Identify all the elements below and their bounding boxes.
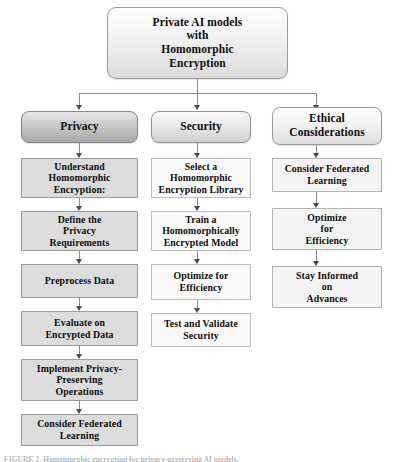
column-header-privacy[interactable]: Privacy (21, 111, 138, 143)
connector-root-trunk (197, 79, 198, 93)
step-security-1[interactable]: Select a Homomorphic Encryption Library (151, 158, 251, 198)
column-header-security[interactable]: Security (151, 111, 251, 143)
figure-caption: FIGURE 2. Homomorphic encryption for pri… (4, 456, 392, 462)
root-node-private-ai-models[interactable]: Private AI models with Homomorphic Encry… (107, 7, 288, 79)
column-header-ethical-considerations[interactable]: Ethical Considerations (272, 107, 382, 145)
step-privacy-3[interactable]: Preprocess Data (21, 264, 138, 298)
arrowhead-to-security-header (194, 105, 200, 110)
step-privacy-2[interactable]: Define the Privacy Requirements (21, 211, 138, 251)
step-ethical-2[interactable]: Optimize for Efficiency (272, 208, 382, 250)
step-privacy-1[interactable]: Understand Homomorphic Encryption: (21, 158, 138, 198)
step-privacy-5[interactable]: Implement Privacy- Preserving Operations (21, 359, 138, 401)
step-ethical-1[interactable]: Consider Federated Learning (272, 158, 382, 192)
step-security-2[interactable]: Train a Homomorphically Encrypted Model (151, 211, 251, 251)
step-security-3[interactable]: Optimize for Efficiency (151, 264, 251, 300)
step-ethical-3[interactable]: Stay Informed on Advances (272, 266, 382, 308)
step-security-4[interactable]: Test and Validate Security (151, 313, 251, 347)
step-privacy-6[interactable]: Consider Federated Learning (21, 414, 138, 446)
flowchart-diagram: Private AI models with Homomorphic Encry… (0, 0, 395, 462)
step-privacy-4[interactable]: Evaluate on Encrypted Data (21, 311, 138, 346)
arrowhead-to-privacy-header (76, 105, 82, 110)
